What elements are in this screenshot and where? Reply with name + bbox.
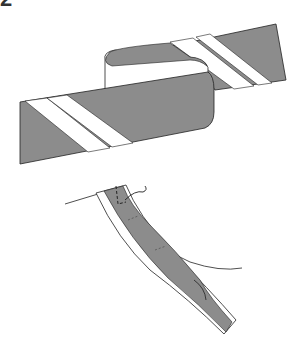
bias-binding-curve <box>65 185 242 334</box>
illustration <box>0 0 306 362</box>
folded-bias-strip <box>20 24 286 164</box>
